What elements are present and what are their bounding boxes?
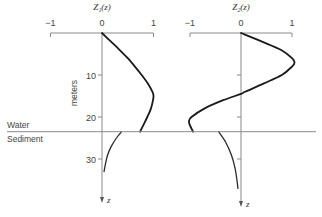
panel-1: Z₁(z)−101z102030 <box>45 2 156 205</box>
panel-title: Z₂(z) <box>232 2 250 12</box>
depth-tick-label: 10 <box>86 71 96 81</box>
depth-tick-label: 30 <box>86 155 96 165</box>
water-label: Water <box>7 120 30 130</box>
depth-variable-label: z <box>106 195 111 205</box>
x-tick-label: 1 <box>151 18 156 28</box>
x-tick-label: 0 <box>99 18 104 28</box>
x-tick-label: 0 <box>238 18 243 28</box>
water-mode-curve <box>102 33 154 132</box>
modal-depth-chart: Z₁(z)−101z102030Z₂(z)−101z Water Sedimen… <box>0 0 322 217</box>
depth-axis-arrow-icon <box>239 201 243 207</box>
depth-variable-label: z <box>245 199 250 209</box>
x-tick-label: −1 <box>45 18 55 28</box>
x-tick-label: 1 <box>289 18 294 28</box>
sediment-label: Sediment <box>7 134 44 144</box>
water-mode-curve <box>189 33 295 132</box>
x-tick-label: −1 <box>185 18 195 28</box>
sediment-mode-curve <box>219 132 238 189</box>
sediment-mode-curve <box>104 132 122 172</box>
depth-axis-label: meters <box>69 80 79 106</box>
depth-axis-arrow-icon <box>100 197 104 203</box>
panel-2: Z₂(z)−101z <box>185 2 295 209</box>
depth-tick-label: 20 <box>86 113 96 123</box>
panel-title: Z₁(z) <box>93 2 111 12</box>
